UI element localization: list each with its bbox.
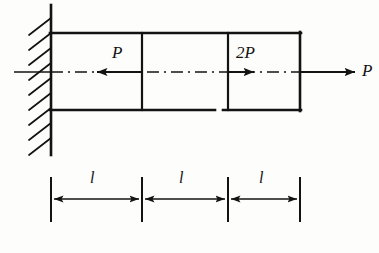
figure-canvas: P 2P P l l l bbox=[0, 0, 379, 253]
load-label-P-end: P bbox=[362, 62, 372, 79]
wall-support bbox=[29, 5, 51, 155]
load-label-2P-internal: 2P bbox=[236, 44, 255, 61]
diagram-svg bbox=[0, 0, 379, 253]
wall-hatching bbox=[29, 18, 51, 155]
load-label-P-internal: P bbox=[112, 44, 122, 61]
dimension-label-2: l bbox=[179, 170, 183, 186]
dimension-label-1: l bbox=[90, 170, 94, 186]
dimension-label-3: l bbox=[259, 170, 263, 186]
